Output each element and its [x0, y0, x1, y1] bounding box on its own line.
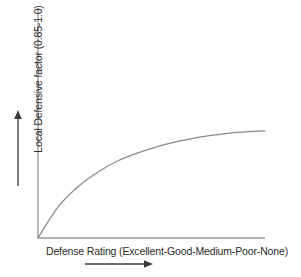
x-axis-label: Defense Rating (Excellent-Good-Medium-Po…	[38, 244, 296, 258]
y-axis-label: Local Defensive factor (0.85-1.0)	[29, 0, 47, 179]
data-curve-local-defensive-factor	[38, 131, 265, 238]
chart-figure: Local Defensive factor (0.85-1.0) Defens…	[0, 0, 301, 277]
y-direction-arrow-icon	[14, 110, 22, 186]
x-direction-arrow-icon	[85, 260, 153, 268]
